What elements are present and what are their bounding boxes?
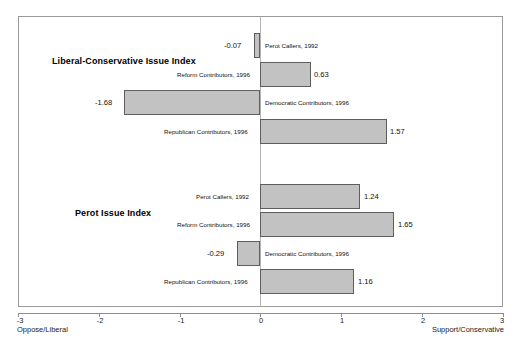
- bar-value-lc-reform-contributors: 0.63: [314, 71, 329, 79]
- bar-lc-democratic-contributors: [124, 90, 260, 115]
- zero-axis-line: [260, 17, 261, 307]
- x-tick-label-neg3: -3: [17, 316, 24, 325]
- bar-value-lc-republican-contributors: 1.57: [390, 128, 405, 136]
- axis-label-oppose-liberal: Oppose/Liberal: [17, 325, 68, 334]
- bar-value-perot-reform-contributors: 1.65: [398, 221, 413, 229]
- group-title-liberal-conservative: Liberal-Conservative Issue Index: [52, 56, 196, 66]
- bar-label-lc-republican-contributors: Republican Contributors, 1996: [164, 129, 248, 135]
- chart-figure: Liberal-Conservative Issue Index -0.07 P…: [0, 0, 522, 350]
- bar-label-lc-reform-contributors: Reform Contributors, 1996: [177, 72, 250, 78]
- bar-perot-perot-callers: [260, 184, 360, 209]
- x-tick-label-2: 2: [421, 316, 425, 325]
- bar-value-lc-democratic-contributors: -1.68: [95, 99, 112, 107]
- x-tick-label-3: 3: [500, 316, 504, 325]
- bar-label-perot-republican-contributors: Republican Contributors, 1996: [164, 279, 248, 285]
- bar-perot-democratic-contributors: [237, 241, 260, 266]
- bar-lc-perot-callers: [254, 33, 260, 58]
- x-tick-label-1: 1: [340, 316, 344, 325]
- axis-label-support-conservative: Support/Conservative: [432, 325, 504, 334]
- bar-value-perot-perot-callers: 1.24: [364, 193, 379, 201]
- bar-label-perot-democratic-contributors: Democratic Contributors, 1996: [265, 251, 349, 257]
- bar-label-lc-perot-callers: Perot Callers, 1992: [265, 43, 318, 49]
- bar-label-lc-democratic-contributors: Democratic Contributors, 1996: [265, 100, 349, 106]
- x-tick-label-neg1: -1: [178, 316, 185, 325]
- bar-label-perot-perot-callers: Perot Callers, 1992: [196, 194, 249, 200]
- bar-value-perot-democratic-contributors: -0.29: [207, 250, 224, 258]
- group-title-perot-issue: Perot Issue Index: [75, 208, 151, 218]
- bar-label-perot-reform-contributors: Reform Contributors, 1996: [177, 222, 250, 228]
- bar-perot-republican-contributors: [260, 269, 354, 294]
- x-tick-label-neg2: -2: [97, 316, 104, 325]
- bar-value-perot-republican-contributors: 1.16: [358, 278, 373, 286]
- bar-value-lc-perot-callers: -0.07: [224, 42, 241, 50]
- bar-perot-reform-contributors: [260, 212, 394, 237]
- bar-lc-reform-contributors: [260, 62, 311, 87]
- bar-lc-republican-contributors: [260, 119, 387, 144]
- x-tick-label-zero: 0: [259, 316, 263, 325]
